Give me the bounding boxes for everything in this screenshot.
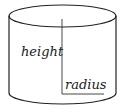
cylinder-top-ellipse [9, 5, 116, 27]
cylinder-figure: height radius [0, 0, 119, 108]
cylinder-bottom-arc [9, 93, 116, 104]
radius-label: radius [65, 77, 107, 92]
height-label: height [21, 44, 64, 59]
cylinder-diagram: height radius [0, 0, 119, 108]
